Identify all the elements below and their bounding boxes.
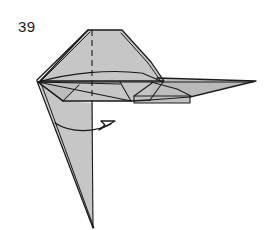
origami-diagram-page: 39	[0, 0, 266, 230]
fold-arrow-head	[99, 121, 115, 130]
origami-figure	[0, 0, 266, 230]
